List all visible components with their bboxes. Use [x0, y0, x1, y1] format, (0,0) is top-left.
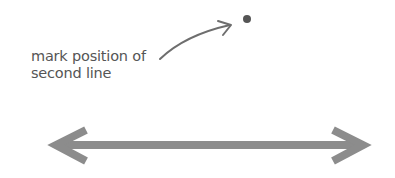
position-dot [243, 15, 251, 23]
curved-pointer-arrow-icon [160, 21, 231, 59]
double-arrow-icon [56, 130, 363, 161]
diagram-canvas [0, 0, 395, 178]
